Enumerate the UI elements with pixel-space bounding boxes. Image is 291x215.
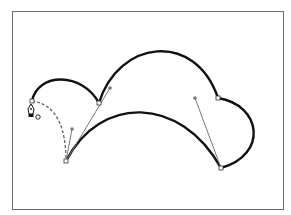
- anchor-point-a[interactable]: [30, 99, 34, 103]
- handle-line-e: [195, 98, 221, 168]
- path-segment-b-d: [99, 51, 218, 103]
- anchor-point-b[interactable]: [97, 101, 101, 105]
- bezier-diagram: [0, 0, 291, 215]
- path-segment-a-b: [32, 79, 99, 103]
- pen-tool-close-path-icon: [28, 104, 40, 119]
- anchor-point-d[interactable]: [216, 96, 220, 100]
- handle-point[interactable]: [193, 96, 197, 100]
- anchor-point-e[interactable]: [219, 166, 223, 170]
- path-segment-d-e: [218, 98, 254, 168]
- preview-path-dashed: [32, 101, 66, 161]
- path-segment-c-e: [66, 112, 221, 168]
- anchor-point-c[interactable]: [64, 159, 68, 163]
- handle-point[interactable]: [108, 86, 112, 90]
- handle-point[interactable]: [70, 127, 74, 131]
- handle-line-c-out: [66, 88, 110, 161]
- illustration-canvas: [0, 0, 291, 215]
